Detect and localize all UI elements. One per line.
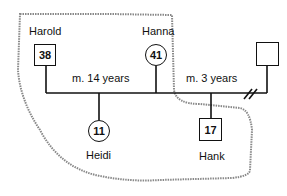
- heidi-circle: 11: [88, 120, 110, 142]
- marriage-label-1: m. 14 years: [72, 72, 129, 84]
- unknown-partner-square: [256, 42, 279, 66]
- harold-age: 38: [39, 49, 51, 61]
- marriage-label-2: m. 3 years: [186, 72, 237, 84]
- hanna-name: Hanna: [142, 25, 174, 37]
- harold-square: 38: [34, 44, 56, 66]
- harold-name: Harold: [29, 25, 61, 37]
- hank-age: 17: [204, 124, 216, 136]
- genogram-diagram: Harold 38 Hanna 41 m. 14 years m. 3 year…: [0, 0, 287, 196]
- heidi-name: Heidi: [86, 149, 111, 161]
- hanna-circle: 41: [145, 44, 167, 66]
- heidi-age: 11: [93, 125, 105, 137]
- hank-square: 17: [199, 118, 222, 141]
- hank-name: Hank: [199, 150, 225, 162]
- hanna-age: 41: [150, 49, 162, 61]
